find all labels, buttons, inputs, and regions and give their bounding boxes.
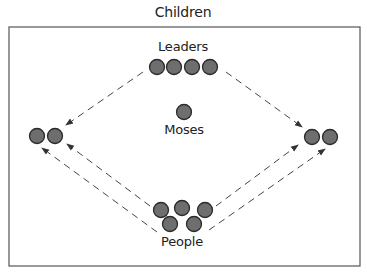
leaders-node [185,60,200,75]
people-node [163,217,178,232]
moses-node [177,105,192,120]
leaders-node [150,60,165,75]
arrow-people-to-left_group [42,148,157,232]
people-node [175,201,190,216]
diagram-frame [9,27,360,266]
people-node [187,217,202,232]
arrow-people-to-right_group [216,145,298,206]
arrow-leaders-to-right_group [226,72,302,127]
right_group-node [305,130,320,145]
left_group-node [48,129,63,144]
leaders-node [203,60,218,75]
arrow-leaders-to-left_group [66,72,143,125]
moses-label: Moses [164,122,204,137]
diagram-title: Children [155,4,212,20]
leaders-node [167,60,182,75]
nodes-group [30,60,338,232]
people-node [154,203,169,218]
leaders-label: Leaders [158,39,208,54]
right_group-node [323,130,338,145]
people-label: People [161,234,203,249]
left_group-node [30,129,45,144]
arrow-people-to-right_group [209,149,325,230]
people-node [198,203,213,218]
